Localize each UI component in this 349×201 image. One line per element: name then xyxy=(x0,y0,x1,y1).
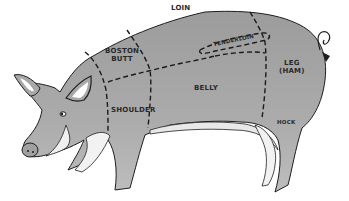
label-leg-ham: LEG (HAM) xyxy=(279,59,305,75)
label-belly: BELLY xyxy=(194,84,218,92)
label-boston-butt-line1: BOSTON xyxy=(105,47,139,55)
label-shoulder: SHOULDER xyxy=(111,106,156,114)
pig-body xyxy=(20,11,326,192)
tail-icon xyxy=(318,32,330,50)
pig-cuts-diagram xyxy=(0,0,349,201)
label-leg-line1: LEG xyxy=(279,59,305,67)
label-loin: LOIN xyxy=(171,4,190,12)
label-leg-line2: (HAM) xyxy=(279,67,305,75)
snout-icon xyxy=(22,143,38,157)
label-hock: HOCK xyxy=(277,118,295,126)
label-boston-butt-line2: BUTT xyxy=(105,55,139,63)
label-boston-butt: BOSTON BUTT xyxy=(105,47,139,63)
